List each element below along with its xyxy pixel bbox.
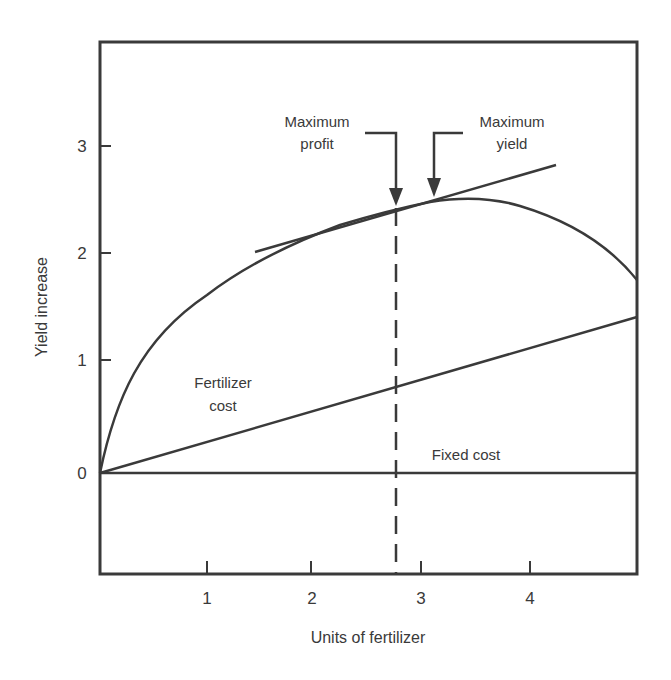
yield-curve <box>100 199 637 473</box>
plot-frame <box>100 42 637 574</box>
fixed-cost-label: Fixed cost <box>432 446 501 463</box>
y-tick-2: 2 <box>77 244 86 263</box>
y-tick-3: 3 <box>77 137 86 156</box>
fertilizer-cost-line <box>100 317 637 473</box>
y-axis-ticks <box>100 146 111 360</box>
fertilizer-yield-chart: 0 1 2 3 1 2 3 4 Units of fertilizer Yiel… <box>0 0 671 680</box>
max-profit-arrow <box>365 133 403 206</box>
max-yield-label-2: yield <box>497 135 528 152</box>
max-profit-label-2: profit <box>300 135 334 152</box>
max-profit-label-1: Maximum <box>284 113 349 130</box>
x-tick-3: 3 <box>416 589 425 608</box>
x-tick-2: 2 <box>307 589 316 608</box>
y-axis-title: Yield increase <box>33 257 50 357</box>
y-tick-0: 0 <box>77 464 86 483</box>
x-axis-title: Units of fertilizer <box>311 629 426 646</box>
max-yield-label-1: Maximum <box>479 113 544 130</box>
max-yield-arrow <box>427 133 463 197</box>
x-tick-1: 1 <box>202 589 211 608</box>
x-axis-ticks <box>207 561 530 574</box>
fertilizer-cost-label-2: cost <box>209 397 237 414</box>
tangent-line <box>255 165 556 252</box>
fertilizer-cost-label-1: Fertilizer <box>194 374 252 391</box>
y-tick-1: 1 <box>77 351 86 370</box>
x-tick-4: 4 <box>525 589 534 608</box>
